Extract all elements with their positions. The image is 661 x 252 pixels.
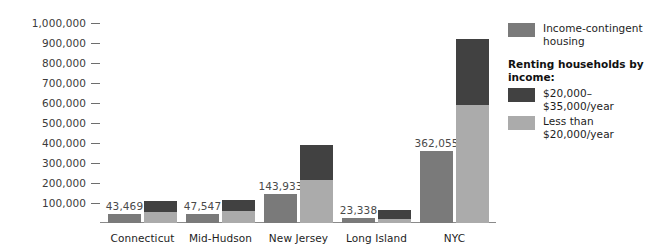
bar-segment-mid-income <box>222 200 255 211</box>
legend-swatch-income-contingent <box>508 23 535 37</box>
bar-value-label: 362,055 <box>414 137 458 149</box>
y-axis-tick-mark <box>91 43 100 44</box>
y-axis-tick: 500,000 <box>42 116 100 130</box>
y-axis-tick-mark <box>91 103 100 104</box>
y-axis-tick-label: 200,000 <box>42 178 86 189</box>
chart-legend: Income-contingent housing Renting househ… <box>508 22 658 143</box>
bar-income-contingent: 362,055 <box>420 151 453 223</box>
x-axis-category-label: New Jersey <box>269 232 328 244</box>
legend-item-mid-income: $20,000–$35,000/year <box>508 87 658 112</box>
bar-segment-low-income <box>300 180 333 223</box>
bar-group: 43,469Connecticut <box>104 201 181 223</box>
bar-segment-low-income <box>144 212 177 223</box>
legend-label-mid-income: $20,000–$35,000/year <box>543 87 658 112</box>
legend-item-low-income: Less than $20,000/year <box>508 115 658 140</box>
bar-renting-households-stacked <box>300 145 333 223</box>
bar-income-contingent: 43,469 <box>108 214 141 223</box>
y-axis-tick: 900,000 <box>42 36 100 50</box>
bar-segment-mid-income <box>378 210 411 219</box>
bar-income-contingent: 47,547 <box>186 214 219 224</box>
legend-label-low-income: Less than $20,000/year <box>543 115 658 140</box>
y-axis-tick-label: 100,000 <box>42 198 86 209</box>
bar-income-contingent: 143,933 <box>264 194 297 223</box>
y-axis-tick: 600,000 <box>42 96 100 110</box>
x-axis-category-label: Mid-Hudson <box>189 232 252 244</box>
bar-segment-low-income <box>378 219 411 223</box>
bar-segment-low-income <box>456 105 489 223</box>
y-axis-tick-mark <box>91 203 100 204</box>
y-axis-tick-label: 500,000 <box>42 118 86 129</box>
y-axis-tick: 200,000 <box>42 176 100 190</box>
bar-income-contingent: 23,338 <box>342 218 375 223</box>
legend-swatch-low-income <box>508 116 535 130</box>
x-axis-category-label: NYC <box>444 232 465 244</box>
bar-value-label: 47,547 <box>184 200 221 212</box>
bar-value-label: 23,338 <box>340 204 377 216</box>
bar-renting-households-stacked <box>456 39 489 223</box>
y-axis-tick-label: 700,000 <box>42 78 86 89</box>
y-axis-tick-mark <box>91 123 100 124</box>
y-axis-tick: 1,000,000 <box>32 16 100 30</box>
y-axis-tick: 100,000 <box>42 196 100 210</box>
legend-label-income-contingent: Income-contingent housing <box>543 22 658 47</box>
bar-group: 143,933New Jersey <box>260 145 337 223</box>
bar-segment-mid-income <box>300 145 333 180</box>
legend-swatch-mid-income <box>508 88 535 102</box>
y-axis-tick-label: 300,000 <box>42 158 86 169</box>
y-axis-tick-label: 1,000,000 <box>32 18 86 29</box>
legend-item-income-contingent: Income-contingent housing <box>508 22 658 47</box>
bar-segment-low-income <box>222 211 255 223</box>
x-axis-category-label: Connecticut <box>111 232 175 244</box>
legend-heading: Renting households by income: <box>508 58 658 83</box>
y-axis-tick-mark <box>91 183 100 184</box>
bar-group: 23,338Long Island <box>338 210 415 223</box>
x-axis-category-label: Long Island <box>346 232 407 244</box>
y-axis-tick-mark <box>91 163 100 164</box>
y-axis-tick-label: 400,000 <box>42 138 86 149</box>
bar-renting-households-stacked <box>378 210 411 223</box>
bar-group: 47,547Mid-Hudson <box>182 200 259 223</box>
grouped-stacked-bar-chart: 1,000,000900,000800,000700,000600,000500… <box>0 0 661 252</box>
y-axis-tick-mark <box>91 23 100 24</box>
bar-renting-households-stacked <box>222 200 255 223</box>
y-axis-tick-mark <box>91 83 100 84</box>
y-axis-tick: 300,000 <box>42 156 100 170</box>
bar-segment-mid-income <box>456 39 489 105</box>
plot-area: 43,469Connecticut47,547Mid-Hudson143,933… <box>100 0 500 252</box>
y-axis-tick: 400,000 <box>42 136 100 150</box>
bar-value-label: 43,469 <box>106 200 143 212</box>
y-axis-tick-label: 800,000 <box>42 58 86 69</box>
bar-value-label: 143,933 <box>258 180 302 192</box>
y-axis-tick-label: 600,000 <box>42 98 86 109</box>
y-axis-tick: 800,000 <box>42 56 100 70</box>
y-axis: 1,000,000900,000800,000700,000600,000500… <box>0 0 100 252</box>
bar-segment-mid-income <box>144 201 177 212</box>
y-axis-tick-mark <box>91 143 100 144</box>
bar-group: 362,055NYC <box>416 39 493 223</box>
y-axis-tick: 700,000 <box>42 76 100 90</box>
y-axis-tick-label: 900,000 <box>42 38 86 49</box>
bar-renting-households-stacked <box>144 201 177 223</box>
y-axis-tick-mark <box>91 63 100 64</box>
